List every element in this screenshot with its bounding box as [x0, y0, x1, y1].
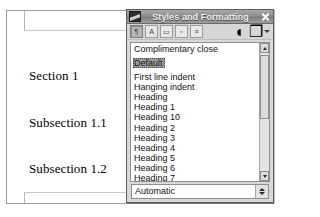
document-line: Section 1 — [29, 68, 107, 84]
scrollbar-track[interactable] — [260, 53, 269, 171]
style-list-item[interactable]: Default — [133, 58, 165, 68]
style-list-item[interactable]: Heading 6 — [133, 163, 259, 173]
style-list-item[interactable]: Heading 2 — [133, 123, 259, 133]
scroll-up-icon[interactable] — [260, 43, 269, 53]
new-style-from-selection-icon[interactable]: ❐ — [249, 25, 262, 38]
panel-toolbar: ¶ A ▭ ▫ ≡ ◐ ❐ — [127, 24, 273, 40]
close-icon[interactable] — [260, 11, 271, 22]
style-list-item[interactable]: Heading 10 — [133, 112, 259, 122]
style-list-item[interactable]: Heading 7 — [133, 173, 259, 181]
panel-title: Styles and Formatting — [141, 11, 260, 23]
styles-panel-icon — [129, 11, 141, 22]
style-list-item[interactable]: Heading 4 — [133, 143, 259, 153]
style-list[interactable]: Complimentary closeDefaultFirst line ind… — [131, 43, 259, 181]
style-list-item[interactable]: Heading 1 — [133, 102, 259, 112]
list-styles-button[interactable]: ≡ — [190, 25, 203, 38]
scrollbar-thumb[interactable] — [260, 55, 269, 119]
style-list-item[interactable]: Heading 3 — [133, 133, 259, 143]
paragraph-styles-button[interactable]: ¶ — [130, 25, 143, 38]
style-list-scrollbar[interactable] — [259, 43, 270, 181]
document-line: Subsection 1.1 — [29, 115, 107, 131]
page-styles-button[interactable]: ▫ — [175, 25, 188, 38]
style-filter-value: Automatic — [132, 185, 255, 198]
character-styles-button[interactable]: A — [145, 25, 158, 38]
styles-and-formatting-panel: Styles and Formatting ¶ A ▭ ▫ ≡ ◐ ❐ Comp… — [126, 9, 274, 203]
style-filter-dropdown[interactable]: Automatic — [131, 184, 269, 199]
fill-format-mode-icon[interactable]: ◐ — [234, 25, 247, 38]
document-line: Subsection 1.2 — [29, 161, 107, 177]
chevron-down-icon[interactable] — [263, 25, 270, 38]
style-list-item[interactable]: First line indent — [133, 72, 259, 82]
scroll-down-icon[interactable] — [260, 171, 269, 181]
style-list-item[interactable]: Hanging indent — [133, 82, 259, 92]
style-list-item[interactable]: Heading — [133, 92, 259, 102]
style-list-container: Complimentary closeDefaultFirst line ind… — [130, 42, 270, 182]
document-text-content[interactable]: Section 1 Subsection 1.1 Subsection 1.2 — [29, 37, 107, 208]
spinner-icon[interactable] — [255, 185, 268, 198]
style-list-item[interactable]: Heading 5 — [133, 153, 259, 163]
style-list-item[interactable]: Complimentary close — [133, 44, 259, 54]
frame-styles-button[interactable]: ▭ — [160, 25, 173, 38]
